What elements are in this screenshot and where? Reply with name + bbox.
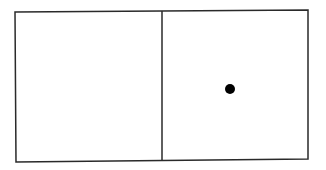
dot-marker [225, 84, 235, 94]
diagram-canvas [0, 0, 326, 170]
right-panel [225, 84, 235, 94]
diagram-svg [0, 0, 326, 170]
